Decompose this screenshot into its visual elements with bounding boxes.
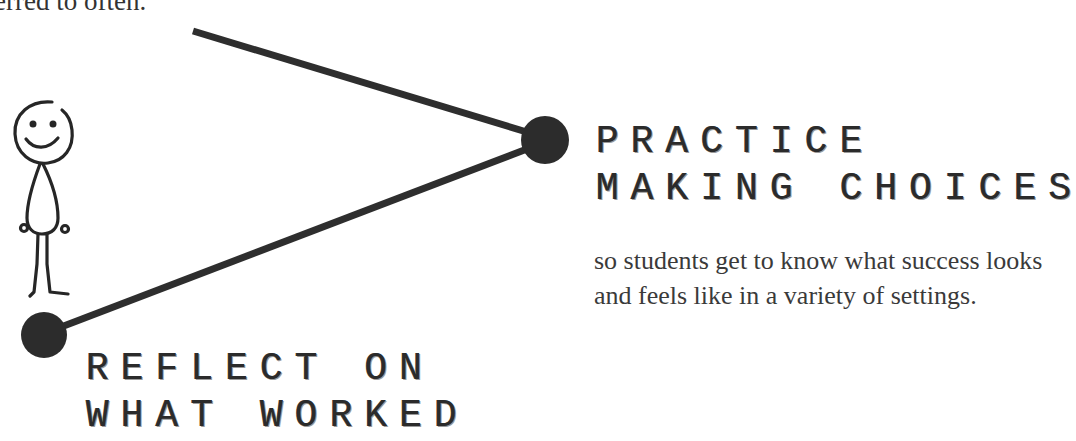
connector-line-bottom bbox=[48, 144, 540, 332]
reflect-title-line-1: REFLECT ON bbox=[86, 345, 469, 392]
node-dot-reflect bbox=[21, 312, 67, 358]
practice-title-line-1: PRACTICE bbox=[596, 118, 1076, 165]
practice-title-line-2: MAKING CHOICES bbox=[596, 165, 1076, 212]
figure-head bbox=[15, 102, 72, 163]
connector-line-top bbox=[193, 31, 540, 136]
practice-description: so students get to know what success loo… bbox=[594, 243, 1054, 313]
node-title-practice: PRACTICE MAKING CHOICES bbox=[596, 118, 1076, 212]
stick-figure-icon bbox=[15, 102, 72, 296]
reflect-title-line-2: WHAT WORKED bbox=[86, 392, 469, 439]
node-title-reflect: REFLECT ON WHAT WORKED bbox=[86, 345, 469, 439]
connector-lines bbox=[48, 31, 540, 332]
node-dot-practice bbox=[521, 116, 569, 164]
